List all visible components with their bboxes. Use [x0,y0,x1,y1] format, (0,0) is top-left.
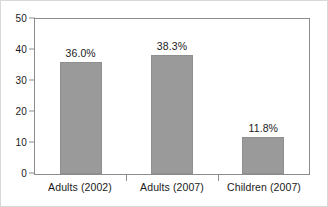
bar-slot: 38.3% [126,19,217,174]
bar [242,137,284,174]
bar-slot: 11.8% [218,19,309,174]
bar [151,55,193,174]
bar-chart-figure: 01020304050 36.0%38.3%11.8% Adults (2002… [0,0,328,207]
x-axis-category-label: Adults (2002) [34,181,126,201]
x-axis-category-labels: Adults (2002)Adults (2007)Children (2007… [34,181,310,201]
bar [60,62,102,174]
bar-value-label: 11.8% [249,122,279,134]
bar-slot: 36.0% [35,19,126,174]
bar-value-label: 38.3% [157,40,187,52]
bars-container: 36.0%38.3%11.8% [35,19,309,174]
bar-value-label: 36.0% [66,47,96,59]
x-axis-category-label: Adults (2007) [126,181,218,201]
x-axis-category-label: Children (2007) [218,181,310,201]
